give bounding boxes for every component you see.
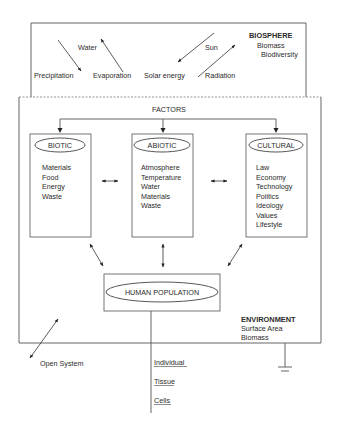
arrow-to-abiotic-icon (161, 128, 166, 133)
cultural-item: Ideology (256, 201, 284, 210)
factors-connector (60, 119, 276, 131)
precipitation-label: Precipitation (34, 71, 74, 80)
biosphere-title: BIOSPHERE (249, 31, 293, 40)
human-population-box: HUMAN POPULATION (104, 274, 220, 311)
cultural-box: CULTURAL Law Economy Technology Politics… (246, 134, 307, 237)
human-population-label: HUMAN POPULATION (125, 288, 199, 297)
biotic-item: Energy (42, 182, 65, 191)
cultural-item: Politics (256, 192, 279, 201)
water-label: Water (78, 43, 98, 52)
biosphere-item-biodiversity: Biodiversity (261, 50, 298, 59)
cultural-item: Technology (256, 182, 293, 191)
cultural-item: Lifestyle (256, 220, 282, 229)
abiotic-title: ABIOTIC (148, 141, 177, 150)
biotic-item: Materials (42, 163, 72, 172)
biosphere-item-biomass: Biomass (257, 41, 285, 50)
abiotic-item: Materials (141, 192, 171, 201)
factors-title: FACTORS (152, 105, 186, 114)
level-tissue: Tissue (154, 377, 175, 386)
evaporation-label: Evaporation (93, 71, 131, 80)
abiotic-item: Waste (141, 201, 161, 210)
organization-levels: Individual Tissue Cells (154, 358, 187, 405)
abiotic-item: Water (141, 182, 161, 191)
arrow-to-cultural-icon (274, 128, 279, 133)
open-system-label: Open System (40, 359, 84, 368)
evaporation-arrow-icon (101, 39, 123, 72)
level-cells: Cells (154, 396, 170, 405)
environment-item-biomass: Biomass (241, 333, 269, 342)
biotic-item: Waste (42, 192, 62, 201)
biotic-title: BIOTIC (48, 141, 72, 150)
abiotic-item: Temperature (141, 173, 181, 182)
cultural-title: CULTURAL (257, 141, 294, 150)
cultural-item: Economy (256, 173, 286, 182)
environment-item-surface-area: Surface Area (241, 324, 283, 333)
solar-energy-label: Solar energy (144, 71, 185, 80)
cultural-item: Values (256, 211, 278, 220)
biotic-box: BIOTIC Materials Food Energy Waste (30, 134, 91, 237)
ground-icon (278, 343, 292, 371)
radiation-label: Radiation (205, 71, 235, 80)
ecosystem-diagram: Water Precipitation Evaporation Sun Sola… (0, 0, 338, 431)
abiotic-box: ABIOTIC Atmosphere Temperature Water Mat… (132, 134, 193, 237)
level-individual: Individual (154, 358, 185, 367)
biotic-item: Food (42, 173, 58, 182)
cultural-item: Law (256, 163, 270, 172)
arrow-to-biotic-icon (58, 128, 63, 133)
abiotic-item: Atmosphere (141, 163, 180, 172)
sun-label: Sun (205, 43, 218, 52)
environment-title: ENVIRONMENT (241, 315, 296, 324)
cultural-human-arrow-icon (228, 244, 242, 266)
biotic-human-arrow-icon (90, 244, 103, 266)
open-system-arrow-icon (30, 319, 58, 358)
